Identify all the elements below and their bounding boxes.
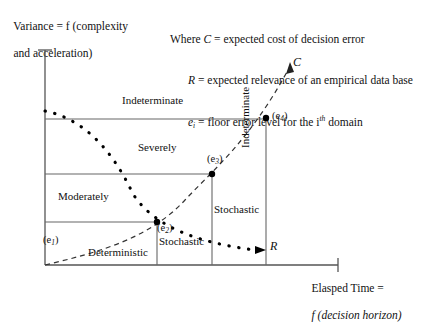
x-axis-caption-line2: f (decision horizon): [312, 309, 402, 321]
point-label-e2-close: ): [169, 222, 173, 233]
point-label-e2: (e2): [157, 222, 172, 236]
point-label-e3-open: (e: [207, 153, 215, 164]
x-axis-caption-line1: Elasped Time =: [312, 282, 384, 294]
curve-label-c: C: [293, 55, 301, 69]
region-label-severely: Severely: [138, 141, 176, 154]
region-label-moderately: Moderately: [58, 190, 109, 203]
region-label-indeterminate-top: Indeterminate: [122, 94, 183, 107]
point-label-e3-close: ): [219, 153, 223, 164]
x-axis-caption: Elasped Time = f (decision horizon): [300, 268, 402, 326]
curve-r-arrowhead: [255, 246, 266, 254]
point-label-e3: (e3): [207, 153, 222, 167]
point-e3-marker: [209, 171, 215, 177]
curve-r: [45, 111, 255, 250]
point-label-e4: (e4): [272, 110, 287, 124]
region-label-deterministic: Deterministic: [88, 246, 148, 259]
point-label-e4-open: (e: [272, 110, 280, 121]
point-label-e1-open: (e: [43, 234, 51, 245]
region-label-indeterminate-vertical: Indeterminate: [239, 87, 252, 148]
curve-label-r: R: [270, 239, 277, 253]
region-label-stochastic-middle: Stochastic: [159, 235, 204, 248]
region-label-stochastic-right: Stochastic: [214, 203, 259, 216]
point-e4-marker: [263, 115, 269, 121]
point-label-e1: (e1): [43, 234, 58, 248]
point-label-e1-close: ): [55, 234, 59, 245]
point-label-e4-close: ): [284, 110, 288, 121]
point-label-e2-open: (e: [157, 222, 165, 233]
